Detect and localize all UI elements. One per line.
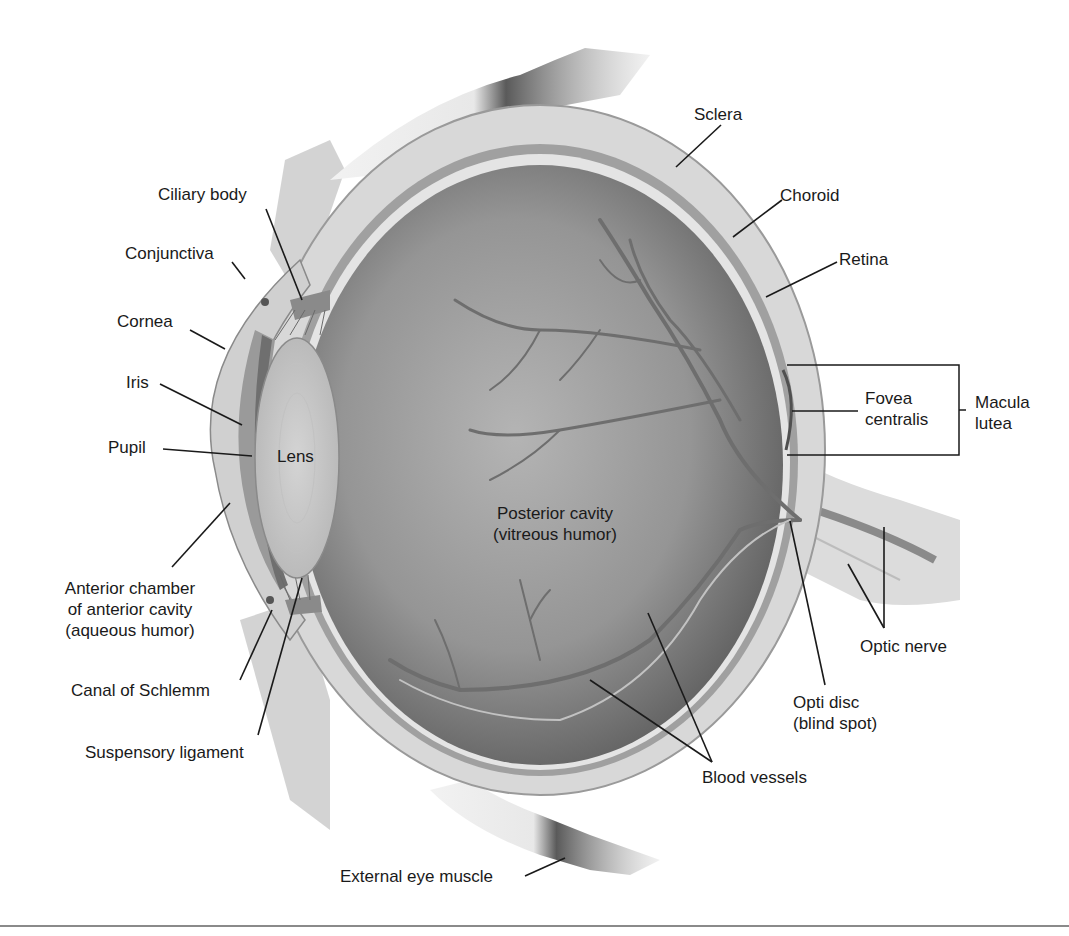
canal-of-schlemm-lower: [266, 596, 274, 604]
macula-line-2: lutea: [975, 413, 1030, 434]
label-retina: Retina: [839, 249, 888, 270]
anterior-line-3: (aqueous humor): [40, 620, 220, 641]
bottom-divider: [0, 925, 1069, 927]
label-optic-nerve: Optic nerve: [860, 636, 947, 657]
label-ciliary-body: Ciliary body: [158, 184, 247, 205]
posterior-line-1: Posterior cavity: [480, 503, 630, 524]
label-sclera: Sclera: [694, 104, 742, 125]
optic-disc-line-1: Opti disc: [793, 692, 877, 713]
optic-disc-line-2: (blind spot): [793, 713, 877, 734]
label-conjunctiva: Conjunctiva: [125, 243, 214, 264]
label-anterior-chamber: Anterior chamber of anterior cavity (aqu…: [40, 578, 220, 641]
anterior-line-2: of anterior cavity: [40, 599, 220, 620]
vitreous-body: [297, 165, 783, 765]
label-lens: Lens: [277, 446, 314, 467]
label-canal-of-schlemm: Canal of Schlemm: [71, 680, 210, 701]
label-fovea-centralis: Fovea centralis: [865, 388, 928, 430]
anterior-line-1: Anterior chamber: [40, 578, 220, 599]
fovea-line-1: Fovea: [865, 388, 928, 409]
macula-line-1: Macula: [975, 392, 1030, 413]
label-macula-lutea: Macula lutea: [975, 392, 1030, 434]
label-optic-disc: Opti disc (blind spot): [793, 692, 877, 734]
posterior-line-2: (vitreous humor): [480, 524, 630, 545]
label-suspensory-ligament: Suspensory ligament: [85, 742, 244, 763]
label-choroid: Choroid: [780, 185, 840, 206]
label-blood-vessels: Blood vessels: [702, 767, 807, 788]
label-cornea: Cornea: [117, 311, 173, 332]
eye-anatomy-diagram: [0, 0, 1069, 936]
label-posterior-cavity: Posterior cavity (vitreous humor): [480, 503, 630, 545]
label-external-eye-muscle: External eye muscle: [340, 866, 493, 887]
fovea-line-2: centralis: [865, 409, 928, 430]
label-iris: Iris: [126, 372, 149, 393]
canal-of-schlemm-upper: [261, 298, 269, 306]
label-pupil: Pupil: [108, 437, 146, 458]
